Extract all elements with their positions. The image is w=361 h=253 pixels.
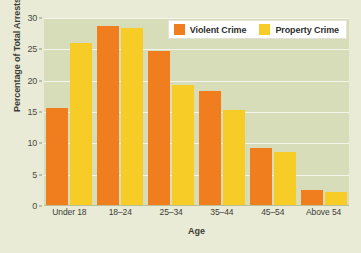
x-axis-tick-label: 45–54 xyxy=(261,207,284,217)
bar-violent-crime xyxy=(250,148,272,206)
y-axis-tick-label: 0 xyxy=(32,201,37,211)
y-axis-tick-label: 25 xyxy=(27,44,37,54)
y-axis-tick-label: 10 xyxy=(27,138,37,148)
bar-violent-crime xyxy=(46,108,68,206)
bar-property-crime xyxy=(325,192,347,206)
y-axis-tick-mark xyxy=(39,174,42,175)
legend-swatch-icon xyxy=(174,24,185,35)
legend-label: Property Crime xyxy=(275,25,339,35)
x-axis-tick-labels: Under 1818–2425–3435–4445–54Above 54 xyxy=(44,207,349,221)
y-axis-tick-label: 20 xyxy=(27,76,37,86)
bar-violent-crime xyxy=(148,51,170,206)
legend-entry: Violent Crime xyxy=(174,24,247,35)
bar-property-crime xyxy=(274,152,296,206)
y-axis-tick-label: 5 xyxy=(32,170,37,180)
chart-legend: Violent CrimeProperty Crime xyxy=(168,20,347,39)
y-axis-tick-mark xyxy=(39,80,42,81)
y-axis-tick-label: 30 xyxy=(27,13,37,23)
bar-violent-crime xyxy=(301,190,323,206)
bar-property-crime xyxy=(70,43,92,206)
chart-figure: Percentage of Total Arrests 051015202530… xyxy=(0,0,361,253)
bar-group xyxy=(298,18,349,206)
y-axis-tick-mark xyxy=(39,143,42,144)
bars-layer xyxy=(44,18,349,206)
x-axis-tick-label: 18–24 xyxy=(109,207,132,217)
y-axis-tick-labels: 051015202530 xyxy=(0,18,42,206)
plot-area: Violent CrimeProperty Crime xyxy=(44,18,349,206)
x-axis-tick-label: Above 54 xyxy=(306,207,341,217)
bar-group xyxy=(146,18,197,206)
x-axis-tick-label: 35–44 xyxy=(210,207,233,217)
bar-group xyxy=(44,18,95,206)
bar-group xyxy=(95,18,146,206)
x-axis-baseline xyxy=(44,205,349,206)
x-axis-tick-label: 25–34 xyxy=(160,207,183,217)
y-axis-tick-mark xyxy=(39,112,42,113)
bar-property-crime xyxy=(223,110,245,207)
y-axis-tick-mark xyxy=(39,18,42,19)
y-axis-tick-mark xyxy=(39,49,42,50)
legend-entry: Property Crime xyxy=(259,24,339,35)
bar-violent-crime xyxy=(97,26,119,206)
x-axis-title: Age xyxy=(44,226,349,236)
bar-group xyxy=(197,18,248,206)
y-axis-tick-label: 15 xyxy=(27,107,37,117)
bar-group xyxy=(247,18,298,206)
y-axis-tick-mark xyxy=(39,206,42,207)
bar-property-crime xyxy=(121,28,143,206)
bar-violent-crime xyxy=(199,91,221,206)
bar-property-crime xyxy=(172,85,194,206)
x-axis-tick-label: Under 18 xyxy=(52,207,86,217)
legend-label: Violent Crime xyxy=(190,25,247,35)
legend-swatch-icon xyxy=(259,24,270,35)
